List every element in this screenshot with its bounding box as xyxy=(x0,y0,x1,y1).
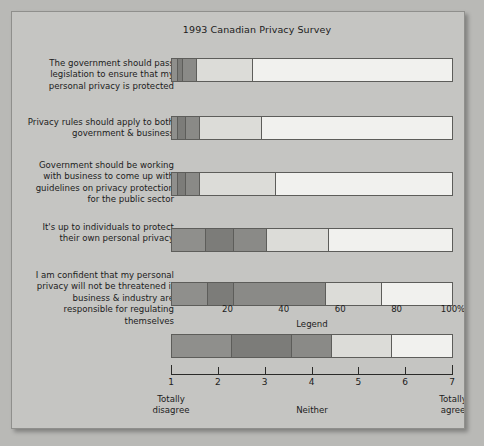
bar-segment xyxy=(200,173,276,195)
bar-segment xyxy=(172,283,208,305)
legend-segment xyxy=(232,335,292,357)
scale-tick xyxy=(218,367,219,375)
bar-row-label: Privacy rules should apply to both gover… xyxy=(24,117,174,140)
scale-axis xyxy=(171,365,453,375)
scale-numbers: 1234567 xyxy=(171,377,453,389)
bar-segment xyxy=(326,283,382,305)
bar-segment xyxy=(178,117,186,139)
scale-tick xyxy=(358,367,359,375)
scale-tick xyxy=(171,365,172,375)
bar-segment xyxy=(262,117,452,139)
scale-tick-label: 6 xyxy=(402,377,408,387)
bar-segment xyxy=(200,117,262,139)
bar-segment xyxy=(253,59,452,81)
legend-bar xyxy=(171,334,453,358)
bar-row-label: I am confident that my personal privacy … xyxy=(24,270,174,327)
scale-tick xyxy=(312,367,313,375)
scale-tick xyxy=(405,367,406,375)
legend-segment xyxy=(172,335,232,357)
scale-low-label-line1: Totally xyxy=(157,394,185,404)
bar-row-label: It's up to individuals to protect their … xyxy=(24,222,174,245)
scale-tick xyxy=(452,365,453,375)
bar-segment xyxy=(197,59,253,81)
bar-segment xyxy=(206,229,234,251)
bar-segment xyxy=(267,229,329,251)
scale-tick-label: 7 xyxy=(449,377,455,387)
scale-tick-label: 1 xyxy=(168,377,174,387)
scale-tick-label: 4 xyxy=(309,377,315,387)
scale-tick-label: 3 xyxy=(262,377,268,387)
percent-axis: 20406080100% xyxy=(171,304,453,316)
legend-segment xyxy=(392,335,452,357)
legend-segment xyxy=(332,335,392,357)
scale-high-label-line1: Totally xyxy=(439,394,465,404)
bar-segment xyxy=(183,59,197,81)
stacked-bar[interactable] xyxy=(171,172,453,196)
legend-segment xyxy=(292,335,332,357)
scale-tick-label: 2 xyxy=(215,377,221,387)
bar-row-label: The government should pass legislation t… xyxy=(24,58,174,92)
bar-segment xyxy=(234,229,268,251)
stacked-bar[interactable] xyxy=(171,282,453,306)
bar-segment xyxy=(186,117,200,139)
stacked-bar[interactable] xyxy=(171,116,453,140)
scale-mid-label: Neither xyxy=(171,405,453,415)
percent-tick-label: 20 xyxy=(222,304,233,314)
bar-segment xyxy=(178,173,186,195)
percent-tick-label: 80 xyxy=(391,304,402,314)
bar-row-label: Government should be working with busine… xyxy=(24,160,174,206)
scale-tick xyxy=(265,367,266,375)
stacked-bar[interactable] xyxy=(171,58,453,82)
percent-tick-label: 40 xyxy=(278,304,289,314)
bar-segment xyxy=(186,173,200,195)
bar-segment xyxy=(329,229,452,251)
legend-title: Legend xyxy=(171,319,453,329)
chart-figure: 1993 Canadian Privacy Survey The governm… xyxy=(11,11,465,429)
bar-segment xyxy=(234,283,326,305)
bar-segment xyxy=(382,283,452,305)
bar-segment xyxy=(208,283,233,305)
stacked-bar[interactable] xyxy=(171,228,453,252)
percent-tick-label: 60 xyxy=(335,304,346,314)
scale-tick-label: 5 xyxy=(355,377,361,387)
bar-segment xyxy=(172,229,206,251)
bar-segment xyxy=(276,173,452,195)
chart-title: 1993 Canadian Privacy Survey xyxy=(12,24,464,35)
percent-tick-label: 100% xyxy=(441,304,465,314)
